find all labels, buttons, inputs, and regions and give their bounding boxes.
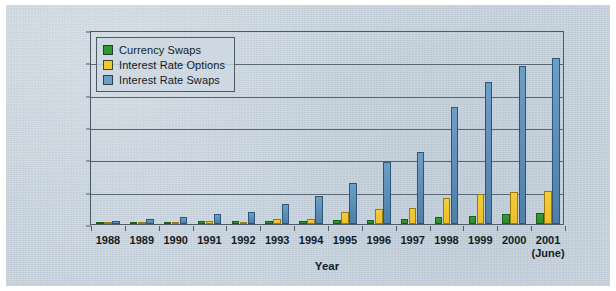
x-axis-tick-mark — [362, 226, 363, 231]
bar-1998-currency-swaps — [435, 217, 443, 224]
bar-1991-interest-rate-options — [206, 221, 214, 224]
bar-1995-interest-rate-options — [341, 212, 349, 224]
y-axis-tick-mark — [86, 193, 91, 194]
x-axis-tick-mark — [531, 226, 532, 231]
bar-1998-interest-rate-options — [443, 198, 451, 224]
chart-legend: Currency SwapsInterest Rate OptionsInter… — [96, 37, 235, 92]
bar-1989-currency-swaps — [130, 222, 138, 224]
bar-1992-interest-rate-swaps — [248, 212, 256, 224]
x-axis-tick-mark — [193, 226, 194, 231]
bar-1989-interest-rate-options — [138, 222, 146, 224]
bar-1994-interest-rate-options — [307, 219, 315, 224]
y-axis-tick-mark — [86, 129, 91, 130]
bar-2000-currency-swaps — [502, 214, 510, 224]
bar-1999-interest-rate-options — [477, 194, 485, 224]
bar-1998-interest-rate-swaps — [451, 107, 459, 224]
y-axis-tick-mark — [86, 161, 91, 162]
bar-1994-interest-rate-swaps — [315, 196, 323, 225]
bar-1993-interest-rate-swaps — [282, 204, 290, 224]
bar-1995-currency-swaps — [333, 220, 341, 224]
legend-label: Currency Swaps — [119, 44, 201, 56]
x-axis-tick-mark — [260, 226, 261, 231]
x-axis-tick-mark — [565, 226, 566, 231]
chart-figure: U.S. Dollars in Billions 60,00050,00040,… — [0, 0, 616, 291]
bar-1992-currency-swaps — [232, 221, 240, 224]
x-axis-tick-mark — [91, 226, 92, 231]
bar-1989-interest-rate-swaps — [146, 219, 154, 224]
y-axis-tick-mark — [86, 32, 91, 33]
bar-1988-currency-swaps — [96, 222, 104, 224]
bar-1988-interest-rate-options — [104, 222, 112, 224]
x-axis-tick-mark — [497, 226, 498, 231]
bar-2000-interest-rate-swaps — [519, 66, 527, 224]
x-axis-tick-label-sublabel: (June) — [520, 247, 576, 260]
bar-1999-currency-swaps — [469, 216, 477, 224]
bar-1992-interest-rate-options — [240, 222, 248, 224]
bar-1993-currency-swaps — [265, 221, 273, 224]
bar-2001-interest-rate-swaps — [552, 58, 560, 224]
x-axis-title: Year — [90, 260, 564, 272]
x-axis-tick-mark — [328, 226, 329, 231]
bar-1999-interest-rate-swaps — [485, 82, 493, 224]
x-axis-tick-label-year: 2001 — [536, 234, 560, 246]
legend-item-interest-rate-swaps: Interest Rate Swaps — [103, 72, 225, 87]
x-axis-tick-mark — [294, 226, 295, 231]
bar-1994-currency-swaps — [299, 221, 307, 224]
bar-1996-currency-swaps — [367, 220, 375, 224]
x-axis-tick-mark — [125, 226, 126, 231]
legend-item-interest-rate-options: Interest Rate Options — [103, 57, 225, 72]
x-axis-tick-mark — [226, 226, 227, 231]
bar-1995-interest-rate-swaps — [349, 183, 357, 224]
legend-item-currency-swaps: Currency Swaps — [103, 42, 225, 57]
legend-label: Interest Rate Swaps — [119, 74, 220, 86]
x-axis-tick-label-2001: 2001(June) — [520, 234, 576, 260]
bar-1997-interest-rate-swaps — [417, 152, 425, 224]
x-axis-tick-mark — [430, 226, 431, 231]
legend-label: Interest Rate Options — [119, 59, 225, 71]
x-axis-tick-mark — [396, 226, 397, 231]
y-axis-tick-mark — [86, 64, 91, 65]
y-axis-tick-mark — [86, 96, 91, 97]
bar-1991-interest-rate-swaps — [214, 214, 222, 224]
x-axis-tick-mark — [159, 226, 160, 231]
bar-1997-currency-swaps — [401, 219, 409, 224]
x-axis-tick-mark — [463, 226, 464, 231]
bar-1991-currency-swaps — [198, 221, 206, 224]
bar-1990-currency-swaps — [164, 222, 172, 224]
bar-1990-interest-rate-swaps — [180, 217, 188, 224]
bar-1993-interest-rate-options — [273, 219, 281, 224]
bar-2001-interest-rate-options — [544, 191, 552, 224]
legend-swatch-currency — [103, 45, 113, 55]
bar-1990-interest-rate-options — [172, 222, 180, 224]
bar-1996-interest-rate-swaps — [383, 162, 391, 224]
bar-1997-interest-rate-options — [409, 208, 417, 224]
legend-swatch-options — [103, 60, 113, 70]
bar-1988-interest-rate-swaps — [112, 221, 120, 224]
bar-2001-currency-swaps — [536, 213, 544, 224]
bar-1996-interest-rate-options — [375, 209, 383, 224]
legend-swatch-swaps — [103, 75, 113, 85]
bar-2000-interest-rate-options — [510, 192, 518, 224]
